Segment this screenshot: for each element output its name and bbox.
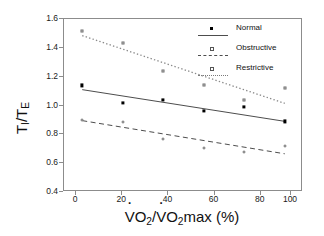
data-point xyxy=(81,29,84,32)
data-point xyxy=(283,87,286,90)
x-tick-label: 60 xyxy=(194,194,234,204)
legend-item-obstructive: Obstructive xyxy=(196,42,300,62)
legend-key-normal xyxy=(196,22,230,42)
data-point xyxy=(162,137,165,140)
legend-label-normal: Normal xyxy=(236,22,262,33)
x-axis-label: VO2/VO2max (%) xyxy=(0,208,324,227)
y-tick-label: 1.4 xyxy=(28,42,58,52)
x-tick-label: 20 xyxy=(101,194,141,204)
data-point xyxy=(121,121,124,124)
chart-figure: 1.6 1.4 1.2 1.0 0.8 0.6 0.4 0 20 40 60 8… xyxy=(0,0,324,236)
legend-label-restrictive: Restrictive xyxy=(236,62,273,73)
y-tick-label: 1.2 xyxy=(28,71,58,81)
data-point xyxy=(162,98,165,101)
data-point xyxy=(202,84,205,87)
x-tick-label: 0 xyxy=(55,194,95,204)
y-tick-label: 1.0 xyxy=(28,100,58,110)
legend-item-normal: Normal xyxy=(196,22,300,42)
legend-key-obstructive xyxy=(196,42,230,62)
y-tick-label: 0.8 xyxy=(28,128,58,138)
y-axis-label: TI/TE xyxy=(13,102,32,134)
data-point xyxy=(202,147,205,150)
y-axis-label-sub-e: E xyxy=(20,102,31,109)
legend-line-dotted-icon xyxy=(198,75,228,76)
x-axis-label-o2: O xyxy=(166,208,178,225)
data-point xyxy=(81,118,84,121)
data-point xyxy=(202,110,205,113)
x-axis-label-max: max (%) xyxy=(184,208,240,225)
regression-line-normal xyxy=(82,90,285,122)
y-axis-label-sub-i: I xyxy=(20,122,31,125)
data-point xyxy=(121,41,124,44)
y-tick-label: 0.4 xyxy=(28,186,58,196)
legend-marker-filled-square-icon xyxy=(210,27,213,30)
x-tick-label: 100 xyxy=(270,194,310,204)
y-axis-label-t1: T xyxy=(13,125,30,134)
x-axis-label-v2: V xyxy=(156,208,166,225)
y-tick-label: 0.6 xyxy=(28,157,58,167)
legend-marker-open-square-icon xyxy=(210,67,214,71)
regression-line-obstructive xyxy=(82,121,285,154)
legend: Normal Obstructive Restrictive xyxy=(196,22,300,82)
y-axis-label-div: /T xyxy=(13,109,30,122)
x-tick-label: 40 xyxy=(147,194,187,204)
legend-line-solid-icon xyxy=(198,35,228,36)
data-point xyxy=(243,99,246,102)
data-point xyxy=(162,69,165,72)
data-point xyxy=(243,150,246,153)
data-point xyxy=(121,101,124,104)
data-point xyxy=(81,84,84,87)
y-tick-mark xyxy=(59,191,63,192)
x-axis-label-o1: O xyxy=(135,208,147,225)
legend-label-obstructive: Obstructive xyxy=(236,42,276,53)
data-point xyxy=(243,105,246,108)
data-point xyxy=(283,120,286,123)
data-point xyxy=(283,144,286,147)
legend-line-dashed-icon xyxy=(198,55,228,56)
y-tick-label: 1.6 xyxy=(28,13,58,23)
legend-item-restrictive: Restrictive xyxy=(196,62,300,82)
x-axis-label-v1: V xyxy=(125,208,135,225)
legend-marker-open-circle-icon xyxy=(210,47,214,51)
x-tick-label: 80 xyxy=(240,194,280,204)
legend-key-restrictive xyxy=(196,62,230,82)
